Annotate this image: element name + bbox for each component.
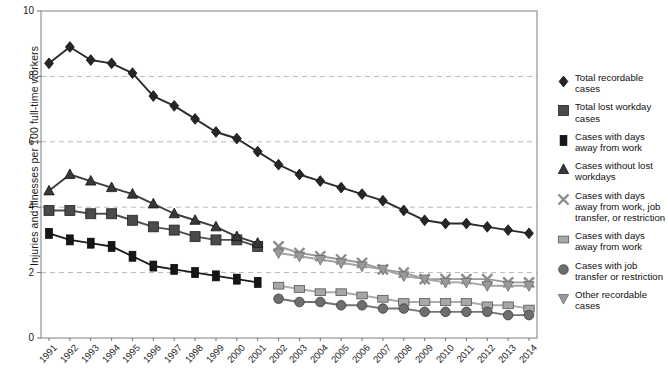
data-point-marker (86, 55, 95, 66)
chart-figure: Injuries and illnesses per 100 full-time… (0, 0, 668, 382)
legend-marker (551, 260, 575, 278)
legend-marker (551, 190, 575, 208)
data-point-marker (44, 205, 54, 215)
data-point-marker (337, 182, 346, 193)
data-point-marker (148, 222, 158, 232)
legend-label: Cases with days away from work (575, 230, 668, 252)
data-point-marker (107, 58, 116, 69)
legend-item[interactable]: Cases without lost workdays (551, 160, 668, 182)
legend-marker (551, 101, 575, 119)
data-point-marker (316, 297, 326, 307)
data-point-marker (213, 271, 220, 281)
data-point-marker (170, 100, 179, 111)
data-point-marker (399, 205, 408, 216)
data-point-marker (169, 225, 179, 235)
legend-label: Other recordable cases (575, 289, 668, 311)
legend-label: Cases with days away from work (575, 131, 668, 153)
legend-item[interactable]: Total recordable cases (551, 72, 668, 94)
square-small-icon (555, 132, 572, 149)
data-point-marker (483, 221, 492, 232)
legend-item[interactable]: Cases with days away from work, job tran… (551, 190, 668, 224)
data-point-marker (559, 76, 568, 87)
data-point-marker (558, 236, 568, 243)
data-point-marker (558, 164, 568, 174)
data-point-marker (150, 261, 157, 271)
data-point-marker (462, 307, 472, 317)
x-icon (555, 191, 572, 208)
data-point-marker (399, 304, 409, 314)
legend-marker (551, 160, 575, 178)
legend-label: Total lost workday cases (575, 101, 668, 123)
data-point-marker (65, 169, 75, 179)
series-1 (45, 42, 534, 239)
data-point-marker (315, 289, 325, 296)
data-point-marker (503, 302, 513, 309)
data-point-marker (357, 301, 367, 311)
data-point-marker (503, 310, 513, 320)
legend-item[interactable]: Cases with job transfer or restriction (551, 260, 668, 282)
series-4 (44, 169, 263, 247)
data-point-marker (357, 292, 367, 299)
diamond-icon (555, 73, 572, 90)
square-light-icon (555, 231, 572, 248)
chart-legend: Total recordable casesTotal lost workday… (551, 72, 668, 318)
legend-label: Cases with days away from work, job tran… (575, 190, 668, 224)
data-point-marker (558, 106, 568, 116)
data-point-marker (273, 282, 283, 289)
triangle-down-icon (555, 290, 572, 307)
data-point-marker (419, 299, 429, 306)
data-point-marker (558, 264, 568, 274)
data-point-marker (46, 228, 53, 238)
data-point-marker (440, 299, 450, 306)
circle-icon (555, 261, 572, 278)
series-layer (44, 42, 534, 320)
data-point-marker (65, 205, 75, 215)
data-point-marker (129, 251, 136, 261)
data-point-marker (294, 286, 304, 293)
data-point-marker (274, 294, 284, 304)
data-point-marker (253, 146, 262, 157)
data-point-marker (441, 307, 451, 317)
legend-marker (551, 131, 575, 149)
plot-border (41, 11, 537, 338)
data-point-marker (441, 218, 450, 229)
data-point-marker (65, 42, 74, 53)
gridlines (41, 76, 537, 272)
data-point-marker (378, 195, 387, 206)
data-point-marker (462, 218, 471, 229)
data-point-marker (190, 232, 200, 242)
data-point-marker (274, 159, 283, 170)
data-point-marker (192, 268, 199, 278)
data-point-marker (504, 225, 513, 236)
series-line (49, 47, 529, 233)
legend-item[interactable]: Cases with days away from work (551, 230, 668, 252)
legend-label: Total recordable cases (575, 72, 668, 94)
legend-item[interactable]: Other recordable cases (551, 289, 668, 311)
data-point-marker (336, 301, 346, 311)
data-point-marker (107, 209, 117, 219)
data-point-marker (45, 58, 54, 69)
series-line (49, 175, 258, 244)
legend-label: Cases without lost workdays (575, 160, 668, 182)
data-point-marker (108, 241, 115, 251)
data-point-marker (558, 194, 568, 204)
data-point-marker (171, 264, 178, 274)
data-point-marker (378, 304, 388, 314)
data-point-marker (232, 133, 241, 144)
data-point-marker (560, 135, 567, 145)
data-point-marker (127, 215, 137, 225)
legend-label: Cases with job transfer or restriction (575, 260, 668, 282)
legend-item[interactable]: Cases with days away from work (551, 131, 668, 153)
data-point-marker (525, 228, 534, 239)
data-point-marker (420, 215, 429, 226)
data-point-marker (66, 235, 73, 245)
data-point-marker (482, 307, 492, 317)
data-point-marker (524, 310, 534, 320)
data-point-marker (233, 274, 240, 284)
data-point-marker (378, 295, 388, 302)
data-point-marker (295, 297, 305, 307)
legend-item[interactable]: Total lost workday cases (551, 101, 668, 123)
data-point-marker (254, 277, 261, 287)
data-point-marker (461, 299, 471, 306)
data-point-marker (211, 235, 221, 245)
